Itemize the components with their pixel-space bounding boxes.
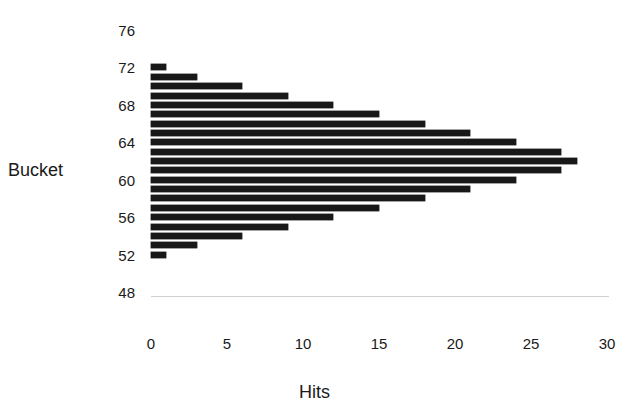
y-axis-tick: 76 (118, 23, 135, 38)
plot-area (151, 30, 607, 292)
bar-row (151, 252, 607, 258)
bar (151, 252, 166, 258)
x-axis-line (151, 296, 609, 297)
bar-row (151, 242, 607, 248)
bar-row (151, 102, 607, 108)
y-axis-title: Bucket (8, 160, 63, 181)
bar (151, 167, 561, 173)
bar (151, 111, 379, 117)
y-axis-tick: 52 (118, 247, 135, 262)
x-axis-tick: 0 (147, 336, 155, 351)
x-axis-tick: 5 (223, 336, 231, 351)
y-axis-tick-labels: 7672686460565248 (95, 30, 143, 292)
x-axis-tick: 15 (371, 336, 388, 351)
bar-row (151, 214, 607, 220)
y-axis-tick: 72 (118, 60, 135, 75)
bar-chart: Bucket 7672686460565248 051015202530 Hit… (0, 0, 629, 418)
y-axis-tick: 60 (118, 172, 135, 187)
bar-row (151, 83, 607, 89)
bar (151, 205, 379, 211)
bar-row (151, 186, 607, 192)
bar (151, 186, 470, 192)
y-axis-tick: 68 (118, 97, 135, 112)
bar (151, 130, 470, 136)
bar-row (151, 233, 607, 239)
bar-row (151, 224, 607, 230)
bar (151, 214, 333, 220)
bar-row (151, 158, 607, 164)
bar-row (151, 167, 607, 173)
x-axis-tick-labels: 051015202530 (0, 336, 629, 358)
chart-title (150, 0, 610, 4)
x-axis-tick: 10 (295, 336, 312, 351)
bar-row (151, 64, 607, 70)
bar (151, 83, 242, 89)
bar-row (151, 205, 607, 211)
bar-row (151, 149, 607, 155)
bar-row (151, 74, 607, 80)
bar (151, 139, 516, 145)
bar-row (151, 195, 607, 201)
bar-row (151, 130, 607, 136)
x-axis-tick: 25 (523, 336, 540, 351)
bar (151, 64, 166, 70)
bar-row (151, 111, 607, 117)
bar-row (151, 177, 607, 183)
y-axis-tick: 64 (118, 135, 135, 150)
bar (151, 158, 577, 164)
bar (151, 224, 288, 230)
bar (151, 149, 561, 155)
bar (151, 93, 288, 99)
bar (151, 74, 197, 80)
y-axis-tick: 56 (118, 210, 135, 225)
bar (151, 195, 425, 201)
bar (151, 121, 425, 127)
bar (151, 177, 516, 183)
bar-row (151, 139, 607, 145)
bar (151, 102, 333, 108)
bar-row (151, 93, 607, 99)
x-axis-tick: 30 (599, 336, 616, 351)
x-axis-tick: 20 (447, 336, 464, 351)
bar (151, 242, 197, 248)
bar-row (151, 121, 607, 127)
y-axis-tick: 48 (118, 285, 135, 300)
x-axis-title: Hits (0, 382, 629, 403)
bar (151, 233, 242, 239)
